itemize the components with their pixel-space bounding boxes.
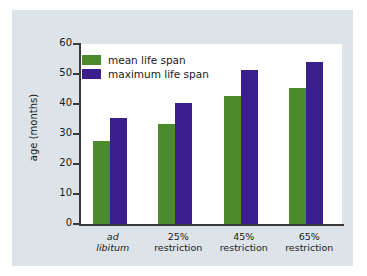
y-axis-tick-label: 0 bbox=[46, 217, 72, 228]
y-axis-tick bbox=[73, 43, 80, 45]
legend-swatch-mean-icon bbox=[82, 55, 101, 65]
y-axis-tick-label: 30 bbox=[46, 127, 72, 138]
bar-mean bbox=[289, 88, 306, 224]
y-axis-tick-label: 40 bbox=[46, 97, 72, 108]
x-axis-line bbox=[79, 224, 344, 226]
bar-mean bbox=[158, 124, 175, 224]
legend-swatch-maximum-icon bbox=[82, 69, 101, 79]
y-axis-tick bbox=[73, 223, 80, 225]
chart-panel: 0102030405060 age (months) ad libitum25%… bbox=[12, 10, 353, 266]
legend-label-mean: mean life span bbox=[108, 54, 186, 66]
y-axis-tick-label: 20 bbox=[46, 157, 72, 168]
y-axis-tick bbox=[73, 193, 80, 195]
bar-mean bbox=[93, 141, 110, 224]
y-axis-tick-label: 60 bbox=[46, 37, 72, 48]
bar-maximum bbox=[241, 70, 258, 225]
legend-item-mean: mean life span bbox=[82, 53, 209, 66]
bar-maximum bbox=[110, 118, 127, 224]
chart-screenshot: 0102030405060 age (months) ad libitum25%… bbox=[0, 0, 367, 276]
bar-maximum bbox=[306, 62, 323, 224]
y-axis-tick bbox=[73, 103, 80, 105]
bar-maximum bbox=[175, 103, 192, 224]
y-axis-tick bbox=[73, 133, 80, 135]
y-axis-title: age (months) bbox=[28, 83, 39, 173]
y-axis-tick-label: 10 bbox=[46, 187, 72, 198]
y-axis-tick-label: 50 bbox=[46, 67, 72, 78]
x-axis-category-label: 65% restriction bbox=[264, 231, 354, 253]
legend-label-maximum: maximum life span bbox=[108, 68, 209, 80]
bar-mean bbox=[224, 96, 241, 224]
y-axis-tick bbox=[73, 163, 80, 165]
y-axis-tick bbox=[73, 73, 80, 75]
legend-item-maximum: maximum life span bbox=[82, 67, 209, 80]
chart-legend: mean life span maximum life span bbox=[82, 53, 209, 81]
